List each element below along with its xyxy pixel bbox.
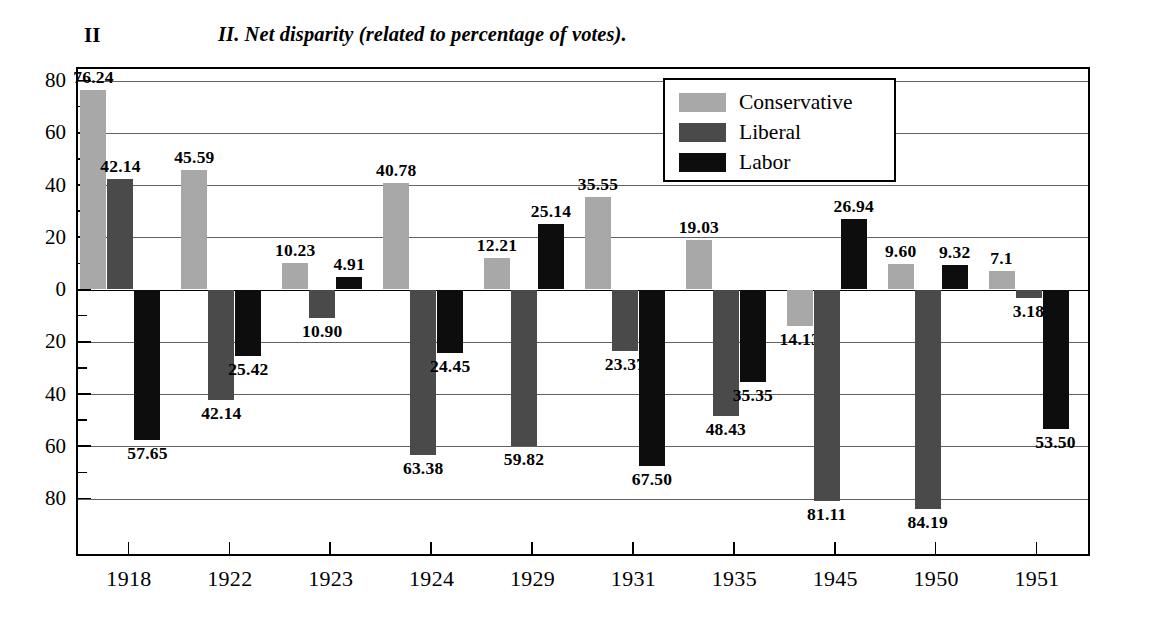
x-axis-label: 1918 [74,566,184,592]
x-axis-label: 1945 [780,566,890,592]
x-axis-label: 1950 [881,566,991,592]
bar-value-label: 40.78 [361,161,431,179]
y-axis-tick [78,498,91,500]
y-axis-label: 20 [6,331,66,352]
y-axis-label: 80 [6,70,66,91]
bar-labor-1931 [639,290,665,466]
y-axis-label: 60 [6,122,66,143]
y-axis-tick [78,341,91,343]
x-axis-label: 1929 [478,566,588,592]
legend-item-liberal: Liberal [679,117,894,147]
bar-value-label: 42.14 [186,404,256,422]
bar-conservative-1931 [585,197,611,290]
bar-liberal-1929 [511,290,537,446]
x-axis-tick [430,542,432,554]
bar-liberal-1918 [107,179,133,289]
x-axis-tick [229,542,231,554]
bar-liberal-1951 [1016,290,1042,298]
bar-labor-1924 [437,290,463,354]
y-axis-label: 20 [6,227,66,248]
bar-liberal-1945 [814,290,840,502]
x-axis-label: 1923 [276,566,386,592]
y-axis-tick [78,367,87,369]
legend-swatch-labor-icon [679,153,726,172]
legend-swatch-liberal-icon [679,123,726,142]
y-axis-label: 60 [6,436,66,457]
bar-value-label: 57.65 [112,444,182,462]
bar-value-label: 25.42 [213,360,283,378]
gridline [78,237,1088,238]
figure-number: II [84,23,101,48]
x-axis-tick [531,542,533,554]
y-axis-tick [78,445,91,447]
y-axis-label: 40 [6,384,66,405]
bar-conservative-1929 [484,258,510,290]
y-axis-label: 80 [6,488,66,509]
bar-conservative-1935 [686,240,712,290]
bar-value-label: 12.21 [462,236,532,254]
chart-plot-area: 76.2442.1457.6545.5942.1425.4210.2310.90… [76,67,1090,556]
bar-conservative-1923 [282,263,308,290]
x-axis-label: 1931 [578,566,688,592]
legend-label-liberal: Liberal [739,121,801,143]
legend-swatch-conservative-icon [679,93,726,112]
bar-conservative-1951 [989,271,1015,290]
legend-label-labor: Labor [739,151,790,173]
y-axis-label: 40 [6,175,66,196]
y-axis-tick [78,315,87,317]
bar-value-label: 76.24 [58,68,128,86]
bar-value-label: 4.91 [314,255,384,273]
bar-value-label: 19.03 [664,218,734,236]
chart-legend: Conservative Liberal Labor [663,78,896,182]
bar-value-label: 7.1 [967,249,1037,267]
bar-value-label: 48.43 [691,420,761,438]
gridline [78,81,1088,82]
y-axis-tick [78,419,87,421]
y-axis-tick [78,393,91,395]
bar-labor-1922 [235,290,261,356]
bar-value-label: 84.19 [893,513,963,531]
bar-liberal-1923 [309,290,335,318]
y-axis-tick [78,472,87,474]
bar-labor-1929 [538,224,564,290]
legend-item-labor: Labor [679,147,894,177]
x-axis-label: 1951 [982,566,1092,592]
bar-labor-1951 [1043,290,1069,430]
bar-value-label: 35.35 [718,386,788,404]
x-axis-label: 1924 [377,566,487,592]
bar-liberal-1950 [915,290,941,510]
gridline [78,133,1088,134]
bar-value-label: 25.14 [516,202,586,220]
chart-inner: 76.2442.1457.6545.5942.1425.4210.2310.90… [78,69,1088,554]
x-axis-label: 1935 [679,566,789,592]
bar-value-label: 63.38 [388,459,458,477]
legend-label-conservative: Conservative [739,91,852,113]
x-axis-tick [1036,542,1038,554]
bar-value-label: 67.50 [617,470,687,488]
figure-title: II. Net disparity (related to percentage… [218,23,627,46]
x-axis-label: 1922 [175,566,285,592]
bar-labor-1923 [336,277,362,290]
figure-page: II II. Net disparity (related to percent… [0,0,1150,617]
x-axis-tick [128,542,130,554]
bar-value-label: 10.90 [287,322,357,340]
bar-value-label: 24.45 [415,357,485,375]
y-axis-label: 0 [6,279,66,300]
bar-conservative-1950 [888,264,914,289]
bar-value-label: 35.55 [563,175,633,193]
x-axis-tick [834,542,836,554]
bar-value-label: 26.94 [819,197,889,215]
bar-liberal-1931 [612,290,638,351]
x-axis-tick [935,542,937,554]
x-axis-tick [733,542,735,554]
bar-conservative-1945 [787,290,813,327]
bar-labor-1918 [134,290,160,441]
bar-value-label: 53.50 [1021,433,1091,451]
bar-labor-1945 [841,219,867,289]
bar-value-label: 59.82 [489,450,559,468]
bar-conservative-1918 [80,90,106,289]
x-axis-tick [632,542,634,554]
bar-labor-1950 [942,265,968,289]
bar-value-label: 81.11 [792,505,862,523]
bar-conservative-1922 [181,170,207,289]
